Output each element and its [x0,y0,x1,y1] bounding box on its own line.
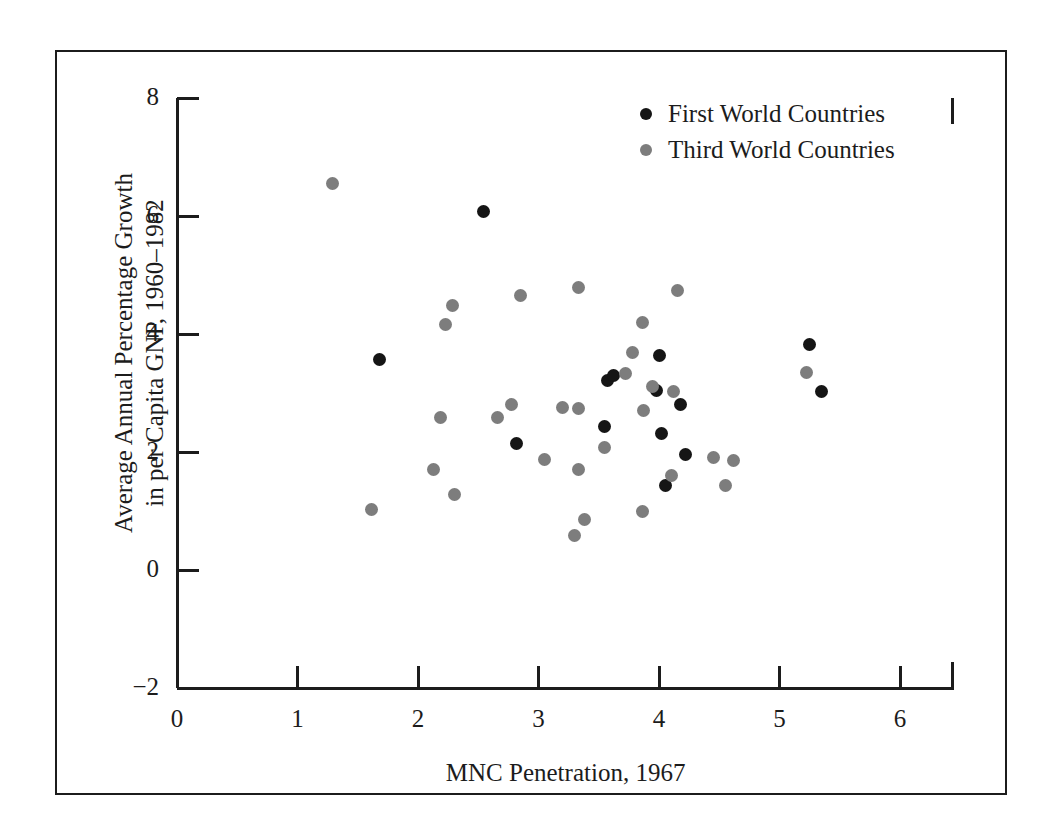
legend-marker-third-icon [640,144,652,156]
legend-item-first: First World Countries [640,96,895,132]
legend-label-third: Third World Countries [668,136,895,164]
legend-item-third: Third World Countries [640,132,895,168]
scatter-plot-figure: −2024680123456MNC Penetration, 1967Avera… [0,0,1057,839]
legend-marker-first-icon [640,108,652,120]
chart-legend: First World CountriesThird World Countri… [640,96,895,168]
legend-label-first: First World Countries [668,100,885,128]
